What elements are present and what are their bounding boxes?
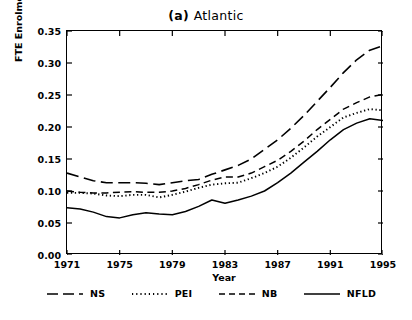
x-tick-5: 1991: [317, 259, 343, 270]
x-tick-6: 1995: [370, 259, 396, 270]
x-tick-1: 1975: [106, 259, 132, 270]
legend-label-pei: PEI: [175, 288, 193, 299]
y-tick-2: 0.10: [38, 186, 61, 197]
legend-swatch-ns: [46, 289, 84, 299]
legend-label-nb: NB: [262, 288, 278, 299]
legend-item-nfld: NFLD: [303, 288, 376, 299]
x-tick-4: 1987: [264, 259, 290, 270]
y-axis-label: FTE Enrolment Rate: [13, 0, 24, 79]
chart-legend: NS PEI NB NFLD: [46, 288, 376, 299]
plot-area: FTE Enrolment Rate Year 0.00 0.05 0.10 0…: [66, 30, 382, 254]
plot-lines: [67, 31, 383, 255]
series-nfld: [67, 119, 383, 218]
series-pei: [67, 109, 383, 197]
legend-item-nb: NB: [218, 288, 278, 299]
x-tick-2: 1979: [159, 259, 185, 270]
y-tick-4: 0.20: [38, 122, 61, 133]
legend-swatch-nb: [218, 289, 256, 299]
axis-ticks: [67, 31, 383, 255]
x-tick-3: 1983: [212, 259, 238, 270]
x-axis-label: Year: [67, 272, 381, 283]
chart-title-region: Atlantic: [194, 8, 244, 23]
legend-item-ns: NS: [46, 288, 105, 299]
y-tick-1: 0.05: [38, 218, 61, 229]
legend-label-nfld: NFLD: [347, 288, 376, 299]
chart-title: (a) Atlantic: [0, 8, 412, 23]
legend-swatch-nfld: [303, 289, 341, 299]
legend-item-pei: PEI: [131, 288, 193, 299]
x-tick-0: 1971: [54, 259, 80, 270]
legend-label-ns: NS: [90, 288, 105, 299]
y-tick-6: 0.30: [38, 58, 61, 69]
y-tick-3: 0.15: [38, 154, 61, 165]
y-tick-5: 0.25: [38, 90, 61, 101]
y-tick-7: 0.35: [38, 26, 61, 37]
legend-swatch-pei: [131, 289, 169, 299]
data-series-group: [67, 46, 383, 218]
chart-title-label: (a): [168, 8, 189, 23]
chart-container: (a) Atlantic FTE Enrolment Rate Year 0.0…: [0, 0, 412, 320]
series-nb: [67, 94, 383, 193]
